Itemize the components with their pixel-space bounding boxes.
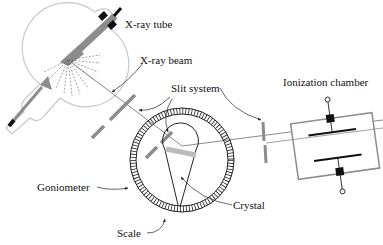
slit-leader-1: [139, 97, 170, 110]
goniometer-scale-ticks: [133, 111, 231, 209]
cathode-terminal: [9, 120, 14, 126]
label-goniometer: Goniometer: [37, 181, 90, 193]
ionization-chamber: [288, 91, 383, 199]
bottom-terminal: [340, 189, 346, 195]
label-crystal: Crystal: [233, 199, 265, 211]
xray-tube: [6, 3, 129, 134]
slit-1b: [92, 126, 104, 138]
scale-leader: [147, 219, 165, 233]
label-slit-system: Slit system: [171, 82, 220, 94]
label-xray-tube: X-ray tube: [125, 18, 172, 30]
chamber-housing: [291, 113, 380, 180]
top-insulator: [326, 114, 335, 123]
diffractometer-diagram: X-ray tube X-ray beam Slit system Ioniza…: [0, 0, 383, 245]
anode-terminal: [114, 8, 121, 16]
goniometer-inner-ring: [136, 114, 228, 206]
cathode-shaft: [14, 87, 42, 120]
label-scale: Scale: [117, 227, 141, 239]
slit-2b: [146, 147, 157, 158]
crystal: [166, 149, 196, 155]
goniometer-leader: [97, 187, 128, 189]
bottom-insulator: [335, 167, 344, 176]
xray-beam-leader: [112, 63, 143, 92]
slit-3a: [263, 122, 264, 141]
top-terminal: [325, 97, 331, 103]
slit-3b: [265, 145, 266, 163]
label-ionization-chamber: Ionization chamber: [283, 76, 369, 88]
goniometer: [130, 108, 234, 212]
label-xray-beam: X-ray beam: [140, 54, 193, 66]
slit-leader-3: [220, 88, 261, 120]
